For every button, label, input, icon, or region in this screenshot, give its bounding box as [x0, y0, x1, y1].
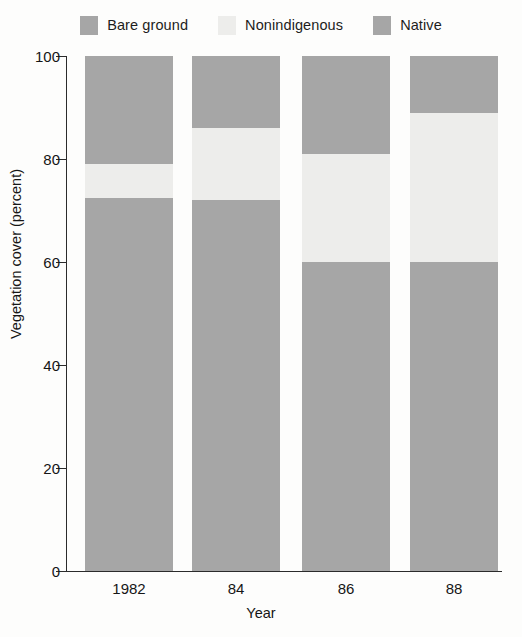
bar-segment-native [410, 262, 498, 571]
legend-label-native: Native [400, 17, 442, 33]
bar-segment-bare-ground [85, 56, 173, 164]
bar-segment-nonindigenous [192, 128, 280, 200]
legend-item-nonindigenous: Nonindigenous [218, 16, 343, 35]
chart-legend: Bare ground Nonindigenous Native [0, 10, 522, 40]
legend-swatch-icon-native [373, 16, 391, 35]
bar-segment-nonindigenous [410, 113, 498, 262]
x-tick-label-84: 84 [192, 580, 280, 597]
plot-area: 0 20 40 60 80 100 [66, 56, 500, 571]
legend-swatch-icon-bare-ground [80, 16, 98, 35]
x-tick-label-88: 88 [410, 580, 498, 597]
x-tick-label-1982: 1982 [85, 580, 173, 597]
bar-segment-bare-ground [302, 56, 390, 154]
y-tick-label: 0 [52, 563, 60, 580]
legend-label-bare-ground: Bare ground [107, 17, 188, 33]
x-axis-line [66, 571, 502, 572]
y-tick-label: 20 [43, 460, 60, 477]
bar-segment-nonindigenous [302, 154, 390, 262]
x-tick-label-86: 86 [302, 580, 390, 597]
bar-segment-native [302, 262, 390, 571]
legend-label-nonindigenous: Nonindigenous [245, 17, 343, 33]
legend-item-bare-ground: Bare ground [80, 16, 188, 35]
legend-swatch-icon-nonindigenous [218, 16, 236, 35]
bar-segment-bare-ground [192, 56, 280, 128]
chart-figure: Bare ground Nonindigenous Native 0 20 40 [0, 0, 522, 637]
y-tick-label: 80 [43, 151, 60, 168]
x-axis-title: Year [0, 605, 522, 621]
legend-item-native: Native [373, 16, 442, 35]
bar-segment-nonindigenous [85, 164, 173, 197]
y-axis-title: Vegetation cover (percent) [8, 94, 24, 414]
y-tick-label: 100 [35, 48, 60, 65]
bar-segment-bare-ground [410, 56, 498, 113]
y-tick-label: 60 [43, 254, 60, 271]
bar-segment-native [192, 200, 280, 571]
bar-segment-native [85, 198, 173, 571]
y-tick-label: 40 [43, 357, 60, 374]
